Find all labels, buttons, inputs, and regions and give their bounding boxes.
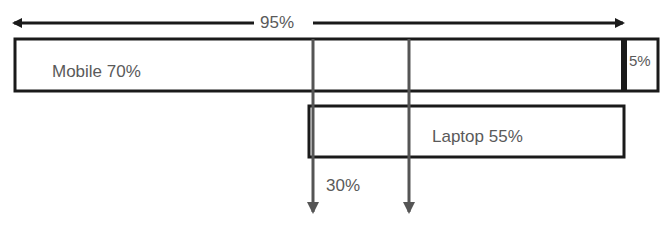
- laptop-label: Laptop 55%: [432, 128, 523, 145]
- mobile-label: Mobile 70%: [52, 63, 141, 80]
- span-label: 95%: [260, 14, 294, 31]
- mobile-divider: [621, 39, 627, 91]
- overlap-label: 30%: [326, 177, 360, 194]
- mobile-extra-label: 5%: [629, 53, 651, 68]
